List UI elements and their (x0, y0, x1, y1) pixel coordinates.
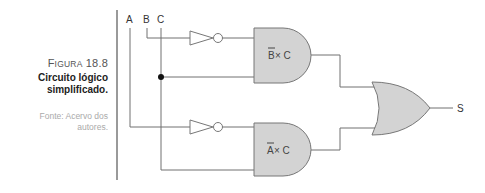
and-gate-a-not-c: A × C (254, 123, 311, 176)
or-gate (372, 82, 430, 135)
and-gate-b-not-c: B × C (254, 28, 311, 83)
inverter-a (190, 120, 254, 134)
logic-circuit-diagram: A B C B × C A × C (0, 0, 485, 193)
junction-dot (158, 74, 164, 80)
gate-label-rest: × C (275, 50, 291, 61)
gate-label-neg: A (267, 145, 274, 156)
gate-label-rest: × C (274, 145, 290, 156)
output-label-s: S (457, 103, 464, 114)
wire-c (158, 28, 254, 170)
input-label-c: C (157, 14, 164, 25)
gate-label-neg: B (268, 50, 275, 61)
input-label-a: A (126, 14, 133, 25)
input-label-b: B (143, 14, 150, 25)
wire-and1-to-or (311, 55, 376, 87)
inverter-b (190, 31, 254, 45)
wire-b (147, 28, 190, 38)
wire-and2-to-or (311, 128, 376, 150)
